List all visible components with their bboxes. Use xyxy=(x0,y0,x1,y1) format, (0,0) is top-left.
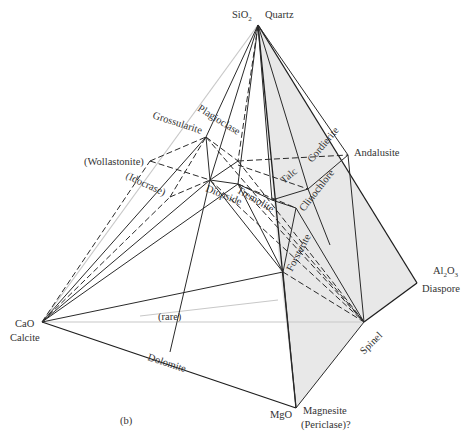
line-diopside-plagioclase xyxy=(210,161,238,180)
label-spinel: Spinel xyxy=(358,330,385,357)
label-sio2: SiO2 xyxy=(232,9,252,23)
label-idocrase: (Idocrase) xyxy=(124,170,168,199)
label-rare: (rare) xyxy=(158,311,182,323)
label-grossularite: Grossularite xyxy=(151,109,204,135)
label-calcite: Calcite xyxy=(10,332,40,343)
line-cao-diopside xyxy=(42,180,210,322)
line-grossularite-diopside xyxy=(206,137,210,180)
line-sio2-diopside xyxy=(210,25,258,180)
panel-label: (b) xyxy=(120,415,133,427)
dash-wollastonite-diopside xyxy=(150,161,210,180)
label-quartz: Quartz xyxy=(265,9,294,20)
label-dolomite: Dolomite xyxy=(146,351,187,374)
label-mgo: MgO xyxy=(270,409,293,420)
label-al2o3: Al2O3 xyxy=(433,265,459,279)
label-diaspore: Diaspore xyxy=(422,283,460,294)
hidden-edge-cao-sio2 xyxy=(42,25,258,322)
label-wollastonite: (Wollastonite) xyxy=(84,156,144,168)
label-periclase: (Periclase)? xyxy=(301,419,351,431)
dash-idocrase-diopside xyxy=(170,180,210,197)
line-diopside-dolomite xyxy=(170,180,210,352)
dash-cao-wollastonite xyxy=(42,161,150,322)
label-magnesite: Magnesite xyxy=(303,405,347,416)
label-andalusite: Andalusite xyxy=(354,147,400,158)
dash-wollastonite-grossularite xyxy=(150,137,206,161)
shaded-face xyxy=(258,25,417,408)
tetrahedron-phase-diagram: SiO2 Quartz Plagioclase Grossularite (Wo… xyxy=(0,0,470,437)
label-cao: CaO xyxy=(15,318,35,329)
dash-cao-idocrase xyxy=(42,197,170,322)
